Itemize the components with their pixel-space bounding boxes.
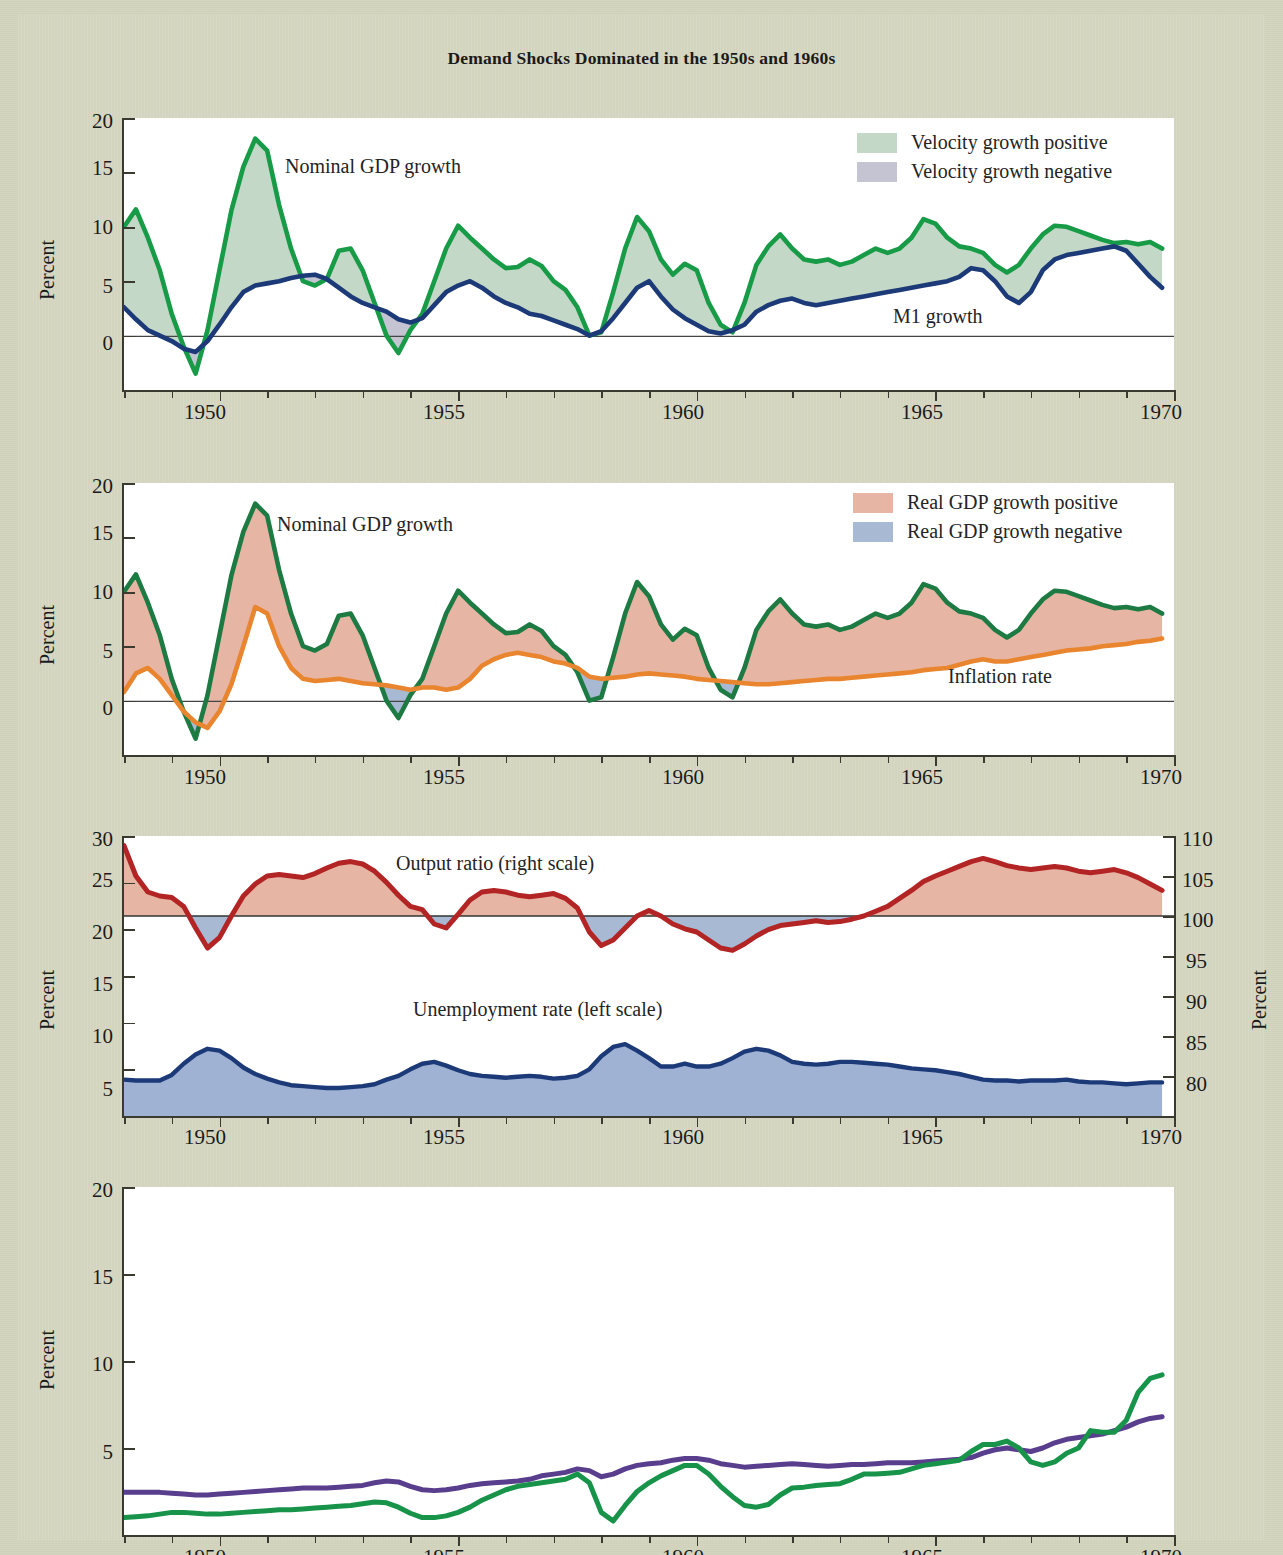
panel-2-legend-label-1: Real GDP growth negative [907, 520, 1122, 543]
x-minor-tick [1126, 1535, 1128, 1543]
panel-1-legend-swatch-positive [857, 133, 897, 153]
panel-1-legend-label-1: Velocity growth negative [911, 160, 1112, 183]
x-minor-tick [363, 1535, 365, 1543]
panel-4-svg [124, 1187, 1174, 1535]
y-tick-mark [1163, 876, 1174, 878]
panel-1-ytick-10: 10 [55, 215, 113, 240]
panel-2-annotation-nominal-gdp: Nominal GDP growth [277, 513, 453, 536]
panel-3-ytick-right-85: 85 [1186, 1031, 1254, 1056]
y-tick-mark [124, 976, 135, 978]
x-minor-tick [649, 1535, 651, 1543]
panel-2-ytick-10: 10 [55, 580, 113, 605]
y-tick-mark [124, 336, 135, 338]
panel-4-ytick-15: 15 [55, 1265, 113, 1290]
panel-2-legend-label-0: Real GDP growth positive [907, 491, 1118, 514]
x-minor-tick [124, 1535, 126, 1543]
panel-4-xtick-1955: 1955 [414, 1545, 474, 1555]
y-tick-mark [124, 1361, 135, 1363]
x-minor-tick [554, 1535, 556, 1543]
x-minor-tick [840, 1535, 842, 1543]
panel-1-legend-row-0: Velocity growth positive [857, 131, 1112, 154]
panel-1-ytick-20: 20 [55, 109, 113, 134]
panel-1-annotation-nominal-gdp: Nominal GDP growth [285, 155, 461, 178]
panel-1-ytick-0: 0 [55, 331, 113, 356]
panel-3-annotation-unemployment: Unemployment rate (left scale) [413, 998, 662, 1021]
y-tick-mark [124, 1023, 135, 1025]
x-minor-tick [267, 1535, 269, 1543]
panel-4-interest-rates: Percent 20 15 10 5 30-year Treasury bond… [0, 1060, 1283, 1555]
x-minor-tick [410, 1535, 412, 1543]
y-tick-mark [1163, 956, 1174, 958]
panel-4-xtick-1970: 1970 [1131, 1545, 1191, 1555]
y-tick-mark [124, 1448, 135, 1450]
y-tick-mark [124, 646, 135, 648]
panel-1-ytick-15: 15 [55, 156, 113, 181]
y-tick-mark [124, 1187, 135, 1189]
x-minor-tick [792, 1535, 794, 1543]
panel-4-plot [122, 1187, 1174, 1537]
x-minor-tick [888, 1535, 890, 1543]
panel-3-ytick-right-100: 100 [1182, 908, 1250, 933]
panel-4-ytick-5: 5 [55, 1440, 113, 1465]
panel-2-legend-swatch-positive [853, 493, 893, 513]
panel-3-ytick-left-15: 15 [45, 972, 113, 997]
panel-2-legend: Real GDP growth positive Real GDP growth… [853, 491, 1122, 549]
y-tick-mark [124, 929, 135, 931]
y-tick-mark [124, 483, 135, 485]
panel-2-legend-swatch-negative [853, 522, 893, 542]
y-tick-mark [124, 172, 135, 174]
y-tick-mark [124, 592, 135, 594]
panel-2-ytick-15: 15 [55, 521, 113, 546]
panel-4-xtick-1960: 1960 [653, 1545, 713, 1555]
y-tick-mark [124, 118, 135, 120]
x-minor-tick [1031, 1535, 1033, 1543]
x-minor-tick [983, 1535, 985, 1543]
x-minor-tick [1079, 1535, 1081, 1543]
panel-3-ytick-left-10: 10 [45, 1024, 113, 1049]
panel-2-ytick-20: 20 [55, 474, 113, 499]
panel-2-annotation-inflation: Inflation rate [948, 665, 1052, 688]
y-tick-mark [1163, 836, 1174, 838]
y-tick-mark [1163, 1036, 1174, 1038]
panel-1-legend-swatch-negative [857, 162, 897, 182]
panel-3-ytick-left-25: 25 [45, 868, 113, 893]
x-minor-tick [315, 1535, 317, 1543]
panel-4-xtick-1950: 1950 [175, 1545, 235, 1555]
y-tick-mark [124, 537, 135, 539]
figure-page: Demand Shocks Dominated in the 1950s and… [0, 0, 1283, 1555]
panel-2-legend-row-1: Real GDP growth negative [853, 520, 1122, 543]
panel-3-ytick-right-95: 95 [1186, 949, 1254, 974]
panel-4-xtick-1965: 1965 [892, 1545, 952, 1555]
panel-1-ytick-5: 5 [55, 274, 113, 299]
y-tick-mark [1163, 996, 1174, 998]
panel-4-ytick-10: 10 [55, 1352, 113, 1377]
panel-3-ytick-right-90: 90 [1186, 990, 1254, 1015]
panel-1-velocity-negative-fill [185, 275, 734, 374]
panel-2-legend-row-0: Real GDP growth positive [853, 491, 1122, 514]
panel-4-ytick-20: 20 [55, 1178, 113, 1203]
x-minor-tick [172, 1535, 174, 1543]
panel-3-annotation-output-ratio: Output ratio (right scale) [396, 852, 594, 875]
panel-3-ytick-left-30: 30 [45, 827, 113, 852]
panel-3-output-positive-fill [124, 846, 1162, 916]
x-minor-tick [601, 1535, 603, 1543]
panel-1-legend-row-1: Velocity growth negative [857, 160, 1112, 183]
y-tick-mark [1163, 916, 1174, 918]
panel-1-legend-label-0: Velocity growth positive [911, 131, 1108, 154]
panel-1-legend: Velocity growth positive Velocity growth… [857, 131, 1112, 189]
y-tick-mark [124, 281, 135, 283]
y-tick-mark [124, 1274, 135, 1276]
panel-3-ytick-left-20: 20 [45, 920, 113, 945]
x-minor-tick [506, 1535, 508, 1543]
panel-3-ytick-right-110: 110 [1182, 827, 1250, 852]
panel-3-ytick-right-105: 105 [1182, 868, 1250, 893]
panel-1-annotation-m1: M1 growth [893, 305, 982, 328]
x-minor-tick [745, 1535, 747, 1543]
y-tick-mark [124, 836, 135, 838]
y-tick-mark [124, 883, 135, 885]
y-tick-mark [124, 227, 135, 229]
panel-4-line-treasury-long-term [124, 1417, 1162, 1495]
panel-2-ytick-5: 5 [55, 639, 113, 664]
